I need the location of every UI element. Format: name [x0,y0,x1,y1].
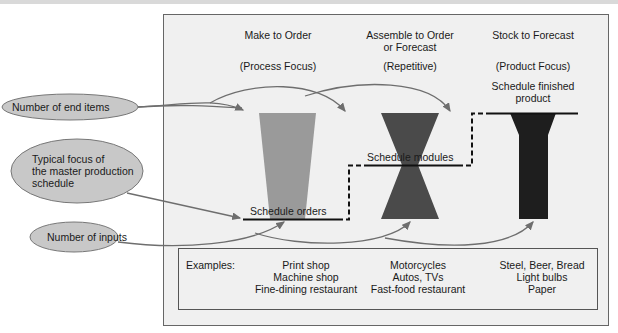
example-item: Paper [472,283,612,295]
callout-focus-line3: schedule [32,177,74,189]
schedule-modules-label: Schedule modules [367,151,453,163]
callout-inputs-label: Number of inputs [47,231,127,243]
callout-focus-line1: Typical focus of [32,153,104,165]
col3-subtitle: (Product Focus) [473,60,593,72]
col3-examples: Steel, Beer, Bread Light bulbs Paper [472,259,612,295]
example-item: Autos, TVs [348,271,488,283]
col1-title: Make to Order [218,29,338,41]
col1-subtitle: (Process Focus) [218,60,338,72]
col2-subtitle: (Repetitive) [350,60,470,72]
col3-schedule-label-line1: Schedule finished [473,80,593,92]
col3-schedule-label-line2: product [473,92,593,104]
callout-focus-line2: the master production [32,165,134,177]
schedule-orders-label: Schedule orders [250,205,326,217]
example-item: Motorcycles [348,259,488,271]
col3-title: Stock to Forecast [473,29,593,41]
callout-end-items-label: Number of end items [12,101,109,113]
col2-examples: Motorcycles Autos, TVs Fast-food restaur… [348,259,488,295]
example-item: Fast-food restaurant [348,283,488,295]
examples-label: Examples: [186,259,235,271]
col2-title-line2: or Forecast [350,41,470,53]
example-item: Light bulbs [472,271,612,283]
col2-title-line1: Assemble to Order [350,29,470,41]
example-item: Steel, Beer, Bread [472,259,612,271]
